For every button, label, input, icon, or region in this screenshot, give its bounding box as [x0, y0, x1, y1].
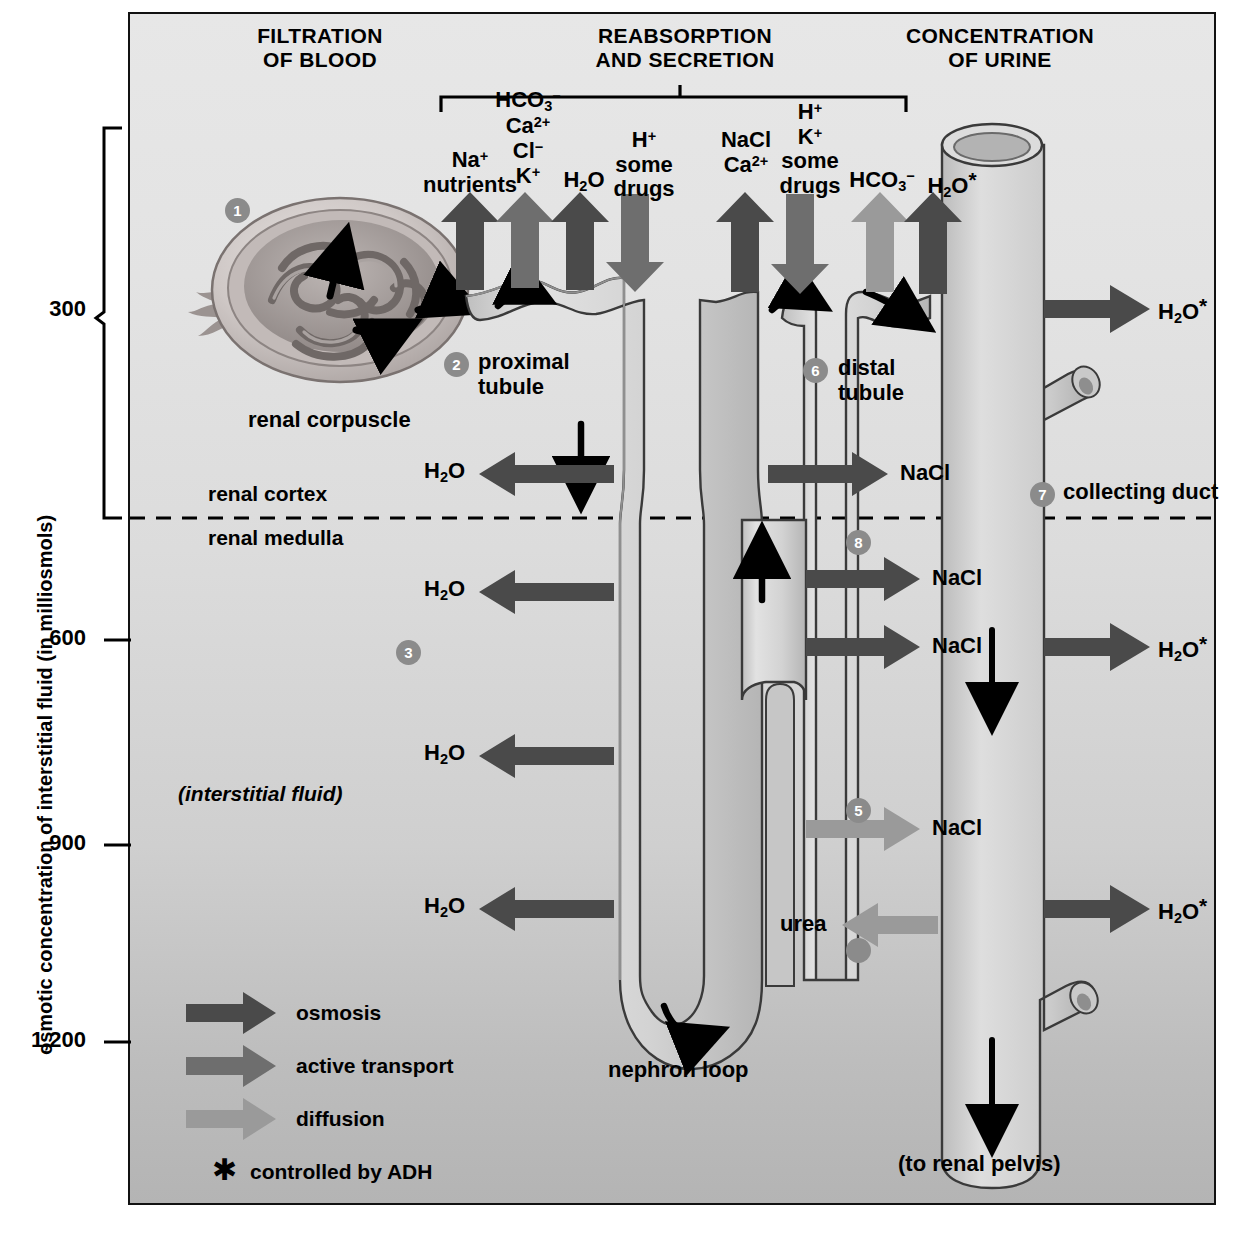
- marker-4: 5: [846, 798, 871, 823]
- label-nacl-2: NaCl: [932, 566, 982, 591]
- marker-5: 8: [846, 530, 871, 555]
- header-concentration: CONCENTRATIONOF URINE: [870, 24, 1130, 71]
- label-h-some-drugs: H+somedrugs: [594, 128, 694, 202]
- legend-label-active-transport: active transport: [296, 1054, 454, 1078]
- label-nacl-3: NaCl: [932, 634, 982, 659]
- axis-tick-300: 300: [10, 297, 86, 322]
- axis-tick-900: 900: [10, 831, 86, 856]
- legend-label-diffusion: diffusion: [296, 1107, 385, 1131]
- label-interstitial-fluid: (interstitial fluid): [178, 782, 343, 806]
- label-distal-tubule: distaltubule: [838, 356, 904, 405]
- label-h2o-efflux-2: H2O: [424, 577, 465, 603]
- marker-8: [846, 938, 871, 963]
- label-urea: urea: [780, 912, 826, 937]
- label-nacl-4: NaCl: [932, 816, 982, 841]
- label-to-renal-pelvis: (to renal pelvis): [898, 1152, 1061, 1177]
- label-h2o-efflux-1: H2O: [424, 459, 465, 485]
- axis-tick-600: 600: [10, 626, 86, 651]
- label-nacl-1: NaCl: [900, 461, 950, 486]
- label-h2o-duct-2: H2O*: [1158, 632, 1207, 665]
- header-filtration: FILTRATIONOF BLOOD: [210, 24, 430, 71]
- legend-label-adh: controlled by ADH: [250, 1160, 432, 1184]
- label-renal-medulla: renal medulla: [208, 526, 343, 550]
- axis-tick-1200: 1,200: [0, 1028, 86, 1053]
- marker-3: 3: [396, 640, 421, 665]
- axis-title: osmotic concentration of interstitial fl…: [34, 515, 57, 1055]
- label-h2o-duct-3: H2O*: [1158, 894, 1207, 927]
- label-collecting-duct: collecting duct: [1063, 480, 1218, 505]
- diagram-text-layer: FILTRATIONOF BLOOD REABSORPTIONAND SECRE…: [0, 0, 1242, 1246]
- marker-2: 2: [444, 352, 469, 377]
- label-h2o-distal: H2O*: [904, 168, 1000, 201]
- label-proximal-tubule: proximaltubule: [478, 350, 570, 399]
- header-reabsorption: REABSORPTIONAND SECRETION: [560, 24, 810, 71]
- label-nephron-loop: nephron loop: [608, 1058, 749, 1083]
- label-h2o-duct-1: H2O*: [1158, 294, 1207, 327]
- marker-6: 6: [803, 358, 828, 383]
- adh-asterisk-icon: ✱: [212, 1155, 237, 1185]
- legend-label-osmosis: osmosis: [296, 1001, 381, 1025]
- marker-1: 1: [225, 198, 250, 223]
- label-h2o-efflux-3: H2O: [424, 741, 465, 767]
- marker-7: 7: [1030, 482, 1055, 507]
- label-renal-corpuscle: renal corpuscle: [248, 408, 411, 433]
- label-renal-cortex: renal cortex: [208, 482, 327, 506]
- label-h2o-efflux-4: H2O: [424, 894, 465, 920]
